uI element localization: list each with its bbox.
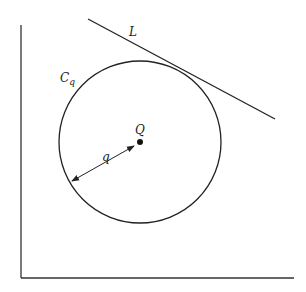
label-cq-main: C	[60, 71, 69, 85]
tangent-line-l	[88, 19, 275, 119]
label-radius-q: q	[102, 151, 110, 163]
label-center-q: Q	[135, 124, 145, 136]
label-cq-sub: q	[69, 77, 75, 87]
label-cq: Cq	[60, 72, 75, 87]
label-l: L	[129, 26, 137, 38]
diagram-svg	[0, 0, 306, 292]
center-point-q	[137, 139, 143, 145]
diagram-canvas: L Cq Q q	[0, 0, 306, 292]
